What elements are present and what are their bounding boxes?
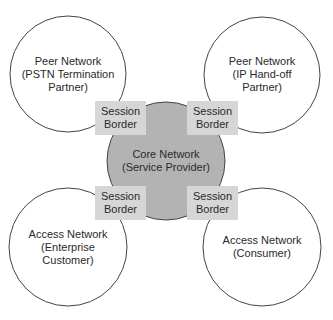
access-network-consumer-label: Access Network (Consumer): [212, 234, 312, 260]
session-border-bottom-right: Session Border: [187, 186, 238, 220]
core-network-label: Core Network (Service Provider): [111, 148, 221, 174]
session-border-top-right: Session Border: [187, 101, 238, 135]
peer-network-ip-label: Peer Network (IP Hand-off Partner): [212, 55, 312, 94]
access-network-enterprise-label: Access Network (Enterprise Customer): [18, 228, 118, 267]
peer-network-pstn-label: Peer Network (PSTN Termination Partner): [18, 55, 118, 94]
session-border-top-left: Session Border: [95, 101, 146, 135]
session-border-bottom-left: Session Border: [95, 186, 146, 220]
